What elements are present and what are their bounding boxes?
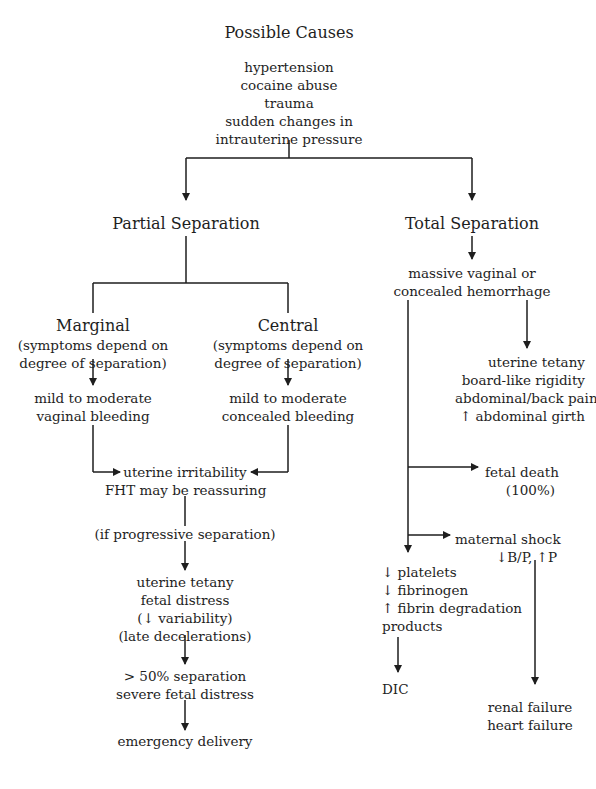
central-note: (symptoms depend on [208,336,368,354]
fetal-death: fetal death (100%) [485,463,555,499]
text-line: (↓ variability) [85,609,285,627]
text-line: mild to moderate [13,389,173,407]
text-line: renal failure [480,698,580,716]
text-line: ↑ fibrin degradation [382,599,542,617]
maternal-shock: maternal shock ↓B/P, ↑P [455,530,557,566]
total-separation-title: Total Separation [382,214,562,234]
text-line: severe fetal distress [85,685,285,703]
central-node: Central (symptoms depend on degree of se… [208,316,368,372]
emergency-delivery: emergency delivery [85,732,285,750]
marginal-node: Marginal (symptoms depend on degree of s… [13,316,173,372]
text-line: fetal death [485,463,555,481]
uterine-irritability: uterine irritability FHT may be reassuri… [105,463,265,499]
cause-item: cocaine abuse [0,76,578,94]
causes-list: hypertension cocaine abuse trauma sudden… [0,58,578,148]
progressive-condition: (if progressive separation) [85,525,285,543]
cause-item: hypertension [0,58,578,76]
text-line: uterine irritability [105,463,265,481]
dic: DIC [382,680,442,698]
text-line: (100%) [485,481,555,499]
text-line: concealed bleeding [208,407,368,425]
text-line: FHT may be reassuring [105,481,265,499]
text-line: board-like rigidity [455,371,585,389]
text-line: heart failure [480,716,580,734]
text-line: ↓ fibrinogen [382,581,542,599]
central-bleeding: mild to moderate concealed bleeding [208,389,368,425]
text-line: vaginal bleeding [13,407,173,425]
massive-hemorrhage: massive vaginal or concealed hemorrhage [392,264,552,300]
text-line: massive vaginal or [392,264,552,282]
text-line: fetal distress [85,591,285,609]
cause-item: sudden changes in [0,112,578,130]
partial-separation-title: Partial Separation [86,214,286,234]
text-line: > 50% separation [85,667,285,685]
text-line: mild to moderate [208,389,368,407]
marginal-bleeding: mild to moderate vaginal bleeding [13,389,173,425]
text-line: products [382,617,542,635]
severe-separation: > 50% separation severe fetal distress [85,667,285,703]
text-line: uterine tetany [85,573,285,591]
organ-failure: renal failure heart failure [480,698,580,734]
text-line: abdominal/back pain [455,389,585,407]
cause-item: trauma [0,94,578,112]
partial-tetany: uterine tetany fetal distress (↓ variabi… [85,573,285,645]
possible-causes-title: Possible Causes [0,23,578,43]
text-line: maternal shock [455,530,557,548]
marginal-note: degree of separation) [13,354,173,372]
marginal-title: Marginal [13,316,173,336]
central-title: Central [208,316,368,336]
text-line: concealed hemorrhage [392,282,552,300]
central-note: degree of separation) [208,354,368,372]
text-line: ↓ platelets [382,563,542,581]
text-line: uterine tetany [455,353,585,371]
cause-item: intrauterine pressure [0,130,578,148]
marginal-note: (symptoms depend on [13,336,173,354]
text-line: (late decelerations) [85,627,285,645]
coagulation-effects: ↓ platelets ↓ fibrinogen ↑ fibrin degrad… [382,563,542,635]
total-tetany: uterine tetany board-like rigidity abdom… [455,353,585,425]
text-line: ↑ abdominal girth [455,407,585,425]
